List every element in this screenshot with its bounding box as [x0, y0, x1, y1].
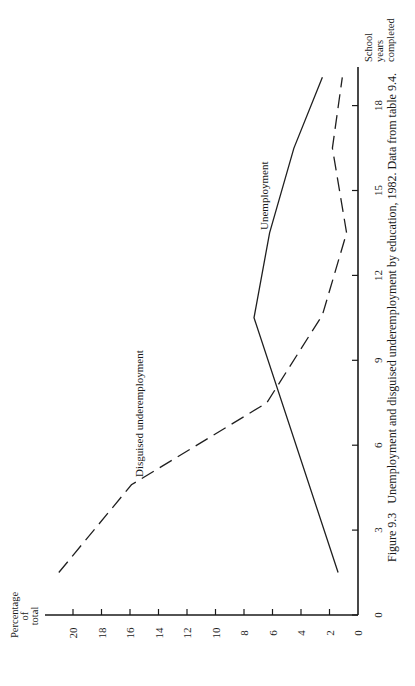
school-years-tick-label: 0: [372, 612, 384, 618]
school-years-tick-label: 9: [372, 357, 384, 363]
line-chart: 0369121518 02468101214161820 Unemploymen…: [0, 0, 415, 686]
percentage-axis-title: Percentage of total: [9, 592, 40, 638]
axis-title-line: years: [374, 40, 385, 62]
percentage-tick-label: 8: [238, 630, 250, 636]
disguised-underemployment-label: Disguised underemployment: [133, 350, 145, 477]
percentage-tick-label: 20: [67, 627, 79, 639]
school-years-tick-label: 12: [372, 270, 384, 281]
percentage-tick-label: 0: [352, 630, 364, 636]
percentage-ticks: 02468101214161820: [67, 609, 364, 639]
school-years-ticks: 0369121518: [352, 100, 384, 618]
figure-caption: Figure 9.3 Unemployment and disguised un…: [385, 73, 399, 562]
percentage-tick-label: 16: [124, 627, 136, 639]
percentage-tick-label: 2: [324, 630, 336, 636]
school-years-tick-label: 6: [372, 442, 384, 448]
percentage-tick-label: 14: [153, 627, 165, 639]
school-years-tick-label: 3: [372, 527, 384, 533]
school-years-axis-title: School years completed: [363, 18, 396, 62]
axis-title-line: School: [363, 33, 374, 62]
unemployment-line: [254, 77, 338, 572]
percentage-tick-label: 18: [96, 627, 108, 639]
axis-title-line: total: [29, 607, 40, 626]
percentage-tick-label: 10: [210, 627, 222, 639]
axis-title-line: completed: [385, 18, 396, 62]
school-years-tick-label: 15: [372, 185, 384, 197]
percentage-tick-label: 6: [267, 630, 279, 636]
percentage-tick-label: 12: [181, 628, 193, 639]
disguised-underemployment-line: [59, 77, 347, 572]
percentage-tick-label: 4: [295, 630, 307, 636]
school-years-tick-label: 18: [372, 100, 384, 112]
unemployment-label: Unemployment: [258, 162, 270, 230]
